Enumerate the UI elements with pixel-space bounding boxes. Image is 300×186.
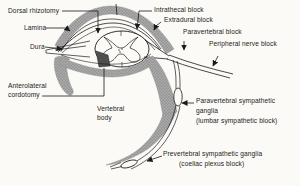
label-prevertebral-sympathetic-line2: (coeliac plexus block) <box>179 161 244 168</box>
prevertebral-symp-arrow <box>147 156 162 161</box>
label-paravertebral-block: Paravertebral block <box>183 29 242 36</box>
peripheral-nerve-arrow <box>213 56 218 66</box>
vertebral-body-right-band <box>145 56 177 116</box>
paravertebral-ganglion <box>174 88 182 106</box>
label-intrathecal-block: Intrathecal block <box>154 7 204 14</box>
spinal-nerve-block-diagram: Dorsal rhizotomy Lamina Dura Anterolater… <box>0 0 300 186</box>
label-vertebral-body-line1: Vertebral <box>97 106 124 113</box>
label-anterolateral-cordotomy-line2: cordotomy <box>8 92 40 99</box>
label-peripheral-nerve-block: Peripheral nerve block <box>209 41 277 48</box>
label-vertebral-body-line2: body <box>97 115 112 122</box>
label-extradural-block: Extradural block <box>164 17 213 24</box>
label-paravertebral-sympathetic-line3: (lumbar sympathetic block) <box>196 118 277 125</box>
left-root-sleeve <box>46 41 90 57</box>
label-prevertebral-sympathetic-line1: Prevertebral sympathetic ganglia <box>163 151 262 158</box>
label-paravertebral-sympathetic-line1: Paravertebral sympathetic <box>196 98 275 105</box>
label-paravertebral-sympathetic-line2: ganglia <box>196 108 218 115</box>
label-dura: Dura <box>30 44 45 51</box>
peripheral-nerve <box>167 55 233 78</box>
label-dorsal-rhizotomy: Dorsal rhizotomy <box>8 8 59 15</box>
sympathetic-chain-upper <box>173 60 180 89</box>
label-anterolateral-cordotomy-line1: Anterolateral <box>8 83 47 90</box>
label-lamina: Lamina <box>24 25 46 32</box>
